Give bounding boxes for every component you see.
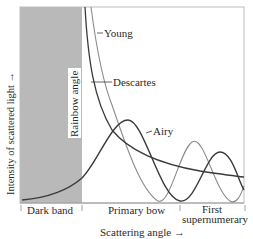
- airy-label: Airy: [153, 125, 174, 137]
- band-primary-label: Primary bow: [108, 204, 165, 216]
- young-label: Young: [104, 27, 133, 39]
- band-dark-label: Dark band: [27, 204, 74, 216]
- rainbow-intensity-diagram: Rainbow angle Young Descartes Airy Inten…: [0, 0, 253, 239]
- band-supernumerary-label: supernumerary: [182, 213, 248, 225]
- y-axis-label: Intensity of scattered light →: [5, 72, 16, 195]
- rainbow-angle-label: Rainbow angle: [68, 71, 80, 137]
- descartes-label: Descartes: [113, 76, 156, 88]
- airy-leader: [146, 131, 152, 133]
- x-axis-label: Scattering angle →: [100, 226, 185, 238]
